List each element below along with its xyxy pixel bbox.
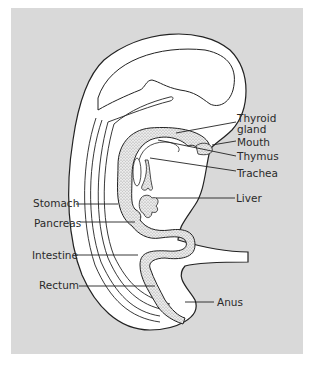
label-anus: Anus bbox=[217, 297, 243, 308]
embryo-gut-diagram bbox=[0, 0, 311, 366]
label-stomach: Stomach bbox=[33, 198, 79, 209]
label-thyroid-gland: Thyroid gland bbox=[237, 113, 276, 135]
label-trachea: Trachea bbox=[237, 168, 278, 179]
label-liver: Liver bbox=[236, 193, 262, 204]
pharynx-pocket bbox=[133, 158, 141, 186]
label-mouth: Mouth bbox=[237, 137, 270, 148]
label-thyroid-line2: gland bbox=[237, 123, 266, 135]
label-intestine: Intestine bbox=[32, 250, 78, 261]
mouth-bud bbox=[196, 143, 212, 155]
label-rectum: Rectum bbox=[39, 280, 79, 291]
label-pancreas: Pancreas bbox=[34, 218, 81, 229]
label-thymus: Thymus bbox=[237, 151, 279, 162]
